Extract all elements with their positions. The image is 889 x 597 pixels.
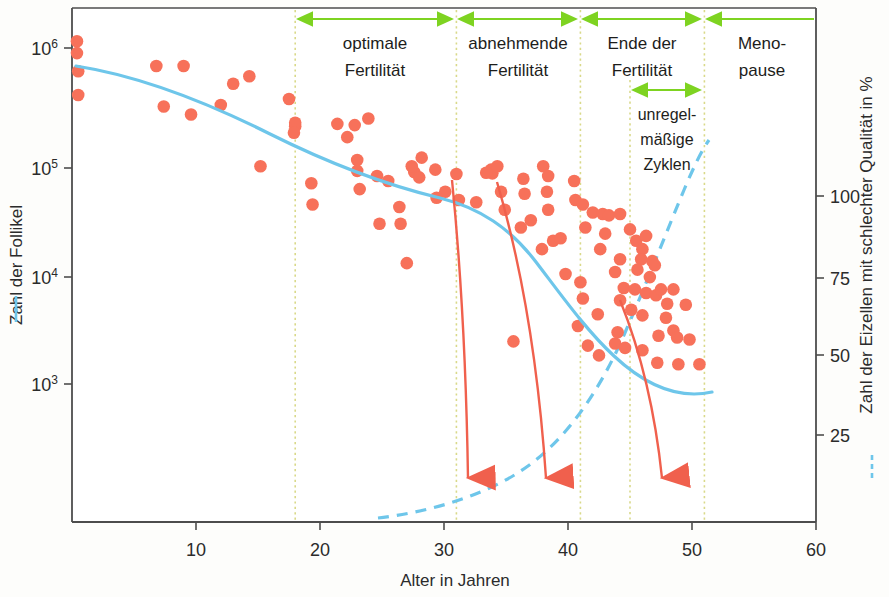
scatter-point bbox=[579, 221, 592, 234]
scatter-point bbox=[177, 60, 190, 73]
x-tick-label-40: 40 bbox=[558, 540, 578, 560]
chart-canvas: optimale Fertilität abnehmende Fertilitä… bbox=[0, 0, 889, 597]
band-label-menopause-line1: Meno- bbox=[738, 34, 786, 53]
scatter-point bbox=[559, 268, 572, 281]
scatter-point bbox=[491, 160, 504, 173]
scatter-point bbox=[577, 198, 590, 211]
scatter-point bbox=[362, 112, 375, 125]
scatter-point bbox=[288, 126, 301, 139]
scatter-point bbox=[671, 331, 684, 344]
scatter-point bbox=[577, 292, 590, 305]
scatter-point bbox=[655, 283, 668, 296]
scatter-point bbox=[72, 89, 85, 102]
scatter-point bbox=[542, 203, 555, 216]
scatter-point bbox=[611, 326, 624, 339]
scatter-point bbox=[554, 232, 567, 245]
scatter-point bbox=[517, 172, 530, 185]
scatter-point bbox=[672, 358, 685, 371]
right-tick-label-25: 25 bbox=[830, 426, 850, 446]
band-label-ende-der-fertilitaet-line2: Fertilität bbox=[612, 61, 673, 80]
scatter-point bbox=[254, 160, 267, 173]
scatter-point bbox=[582, 339, 595, 352]
x-tick-label-60: 60 bbox=[806, 540, 826, 560]
right-axis-title: Zahl der Eizellen mit schlechter Qualitä… bbox=[857, 76, 876, 413]
scatter-point bbox=[667, 283, 680, 296]
x-tick-label-50: 50 bbox=[682, 540, 702, 560]
right-tick-label-75: 75 bbox=[830, 269, 850, 289]
scatter-point bbox=[157, 100, 170, 113]
left-tick-label-1e5: 105 bbox=[31, 157, 58, 179]
x-tick-label-10: 10 bbox=[186, 540, 206, 560]
scatter-point bbox=[680, 298, 693, 311]
scatter-point bbox=[593, 349, 606, 362]
x-tick-label-30: 30 bbox=[434, 540, 454, 560]
scatter-point bbox=[429, 163, 442, 176]
band-label-optimale-fertilitaet-line1: optimale bbox=[343, 34, 407, 53]
left-tick-label-1e6: 106 bbox=[31, 37, 58, 59]
scatter-point bbox=[405, 160, 418, 173]
scatter-point bbox=[618, 282, 631, 295]
scatter-point bbox=[401, 257, 414, 270]
scatter-point bbox=[591, 308, 604, 321]
scatter-point bbox=[594, 243, 607, 256]
scatter-point bbox=[305, 177, 318, 190]
left-tick-label-1e4: 104 bbox=[31, 266, 58, 288]
scatter-point bbox=[71, 35, 84, 48]
scatter-point bbox=[393, 201, 406, 214]
scatter-point bbox=[450, 168, 463, 181]
scatter-point bbox=[542, 170, 555, 183]
scatter-point bbox=[283, 93, 296, 106]
scatter-point bbox=[243, 70, 256, 83]
left-tick-exp-1e3: 3 bbox=[51, 373, 58, 387]
sub-band-label-line3: Zyklen bbox=[643, 156, 690, 173]
scatter-point bbox=[652, 329, 665, 342]
scatter-point bbox=[71, 47, 84, 60]
scatter-point bbox=[614, 253, 627, 266]
scatter-point bbox=[541, 186, 554, 199]
scatter-point bbox=[536, 243, 549, 256]
left-tick-base-1e4: 10 bbox=[31, 268, 51, 288]
scatter-point bbox=[227, 77, 240, 90]
scatter-point bbox=[568, 175, 581, 188]
scatter-point bbox=[629, 283, 642, 296]
scatter-point bbox=[619, 342, 632, 355]
scatter-point bbox=[683, 333, 696, 346]
scatter-point bbox=[649, 259, 662, 272]
scatter-point bbox=[624, 223, 637, 236]
band-label-ende-der-fertilitaet-line1: Ende der bbox=[608, 34, 677, 53]
scatter-point bbox=[631, 263, 644, 276]
left-tick-base-1e3: 10 bbox=[31, 375, 51, 395]
scatter-point bbox=[480, 166, 493, 179]
scatter-point bbox=[660, 312, 673, 325]
scatter-point bbox=[507, 335, 520, 348]
sub-band-label-line2: mäßige bbox=[640, 131, 693, 148]
scatter-point bbox=[518, 187, 531, 200]
x-axis: 10 20 30 40 50 60 Alter in Jahren bbox=[186, 522, 826, 590]
right-y-axis: 100 75 50 25 Zahl der Eizellen mit schle… bbox=[816, 76, 876, 480]
scatter-point bbox=[415, 151, 428, 164]
scatter-point bbox=[306, 198, 319, 211]
x-tick-label-20: 20 bbox=[310, 540, 330, 560]
right-tick-label-50: 50 bbox=[830, 346, 850, 366]
right-tick-label-100: 100 bbox=[830, 187, 860, 207]
scatter-point bbox=[150, 60, 163, 73]
scatter-point bbox=[599, 227, 612, 240]
scatter-point bbox=[515, 221, 528, 234]
scatter-point bbox=[693, 358, 706, 371]
scatter-point bbox=[640, 230, 653, 243]
scatter-point bbox=[331, 118, 344, 131]
scatter-point bbox=[636, 309, 649, 322]
x-axis-title: Alter in Jahren bbox=[400, 571, 510, 590]
scatter-point bbox=[348, 119, 361, 132]
left-tick-exp-1e6: 6 bbox=[51, 37, 58, 51]
left-tick-exp-1e5: 5 bbox=[51, 157, 58, 171]
scatter-point bbox=[609, 266, 622, 279]
band-label-menopause-line2: pause bbox=[739, 61, 785, 80]
scatter-point bbox=[661, 298, 674, 311]
scatter-point bbox=[185, 108, 198, 121]
scatter-point bbox=[651, 356, 664, 369]
scatter-point bbox=[373, 217, 386, 230]
scatter-point bbox=[470, 196, 483, 209]
left-tick-exp-1e4: 4 bbox=[51, 266, 58, 280]
band-label-abnehmende-fertilitaet-line2: Fertilität bbox=[488, 61, 549, 80]
